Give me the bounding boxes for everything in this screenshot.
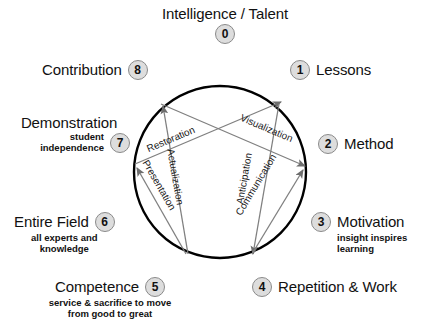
node-6-label: Entire Field bbox=[14, 214, 89, 230]
node-1-badge[interactable]: 1 bbox=[290, 60, 310, 80]
node-4-label: Repetition & Work bbox=[278, 279, 397, 295]
node-5-label: Competence bbox=[55, 279, 139, 295]
node-4-badge[interactable]: 4 bbox=[252, 277, 272, 297]
node-3-sub-line2: learning bbox=[337, 244, 407, 255]
node-2-group[interactable]: 2 Method bbox=[318, 134, 393, 154]
node-7-sub-line1: student bbox=[70, 132, 104, 143]
node-3-group[interactable]: 3 Motivation insight inspires learning bbox=[311, 212, 407, 254]
node-1-group[interactable]: 1 Lessons bbox=[290, 60, 371, 80]
node-7-label: Demonstration bbox=[8, 115, 130, 131]
node-6-sub-line2: knowledge bbox=[40, 244, 89, 255]
node-2-badge[interactable]: 2 bbox=[318, 134, 338, 154]
node-7-group[interactable]: Demonstration student independence 7 bbox=[8, 115, 130, 153]
node-1-label: Lessons bbox=[316, 62, 371, 78]
node-0-group[interactable]: Intelligence / Talent 0 bbox=[145, 6, 305, 44]
node-0-badge[interactable]: 0 bbox=[215, 24, 235, 44]
node-8-group[interactable]: Contribution 8 bbox=[42, 60, 148, 80]
node-4-group[interactable]: 4 Repetition & Work bbox=[252, 277, 397, 297]
node-2-label: Method bbox=[344, 136, 393, 152]
node-5-badge[interactable]: 5 bbox=[145, 277, 165, 297]
node-3-label: Motivation bbox=[337, 214, 404, 230]
node-7-badge[interactable]: 7 bbox=[110, 133, 130, 153]
node-8-badge[interactable]: 8 bbox=[128, 60, 148, 80]
node-6-sub-line1: all experts and bbox=[31, 233, 98, 244]
node-6-badge[interactable]: 6 bbox=[95, 212, 115, 232]
node-6-group[interactable]: Entire Field 6 all experts and knowledge bbox=[14, 212, 115, 254]
node-0-label: Intelligence / Talent bbox=[162, 6, 288, 22]
node-3-badge[interactable]: 3 bbox=[311, 212, 331, 232]
node-5-group[interactable]: Competence 5 service & sacrifice to move… bbox=[10, 277, 210, 319]
node-5-sub-line2: from good to great bbox=[68, 309, 152, 320]
diagram-canvas: Restoration Visualization Actualization … bbox=[0, 0, 436, 328]
edge-restoration bbox=[135, 102, 281, 164]
node-5-sub-line1: service & sacrifice to move bbox=[49, 298, 172, 309]
node-7-sub-line2: independence bbox=[40, 143, 104, 154]
node-8-label: Contribution bbox=[42, 62, 122, 78]
node-3-sub-line1: insight inspires bbox=[337, 233, 407, 244]
main-circle bbox=[134, 86, 306, 258]
